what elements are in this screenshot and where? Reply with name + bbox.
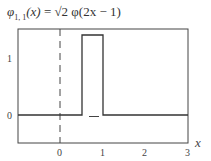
xtick-1: 1 [100, 147, 105, 158]
plot: 0 1 0 1 2 3 x [0, 0, 211, 161]
x-axis-label: x [194, 135, 201, 150]
xtick-3: 3 [185, 147, 190, 158]
xtick-2: 2 [142, 147, 147, 158]
ytick-1: 1 [7, 53, 12, 64]
ytick-0: 0 [7, 110, 12, 121]
xtick-0: 0 [57, 147, 62, 158]
function-curve [18, 35, 188, 115]
